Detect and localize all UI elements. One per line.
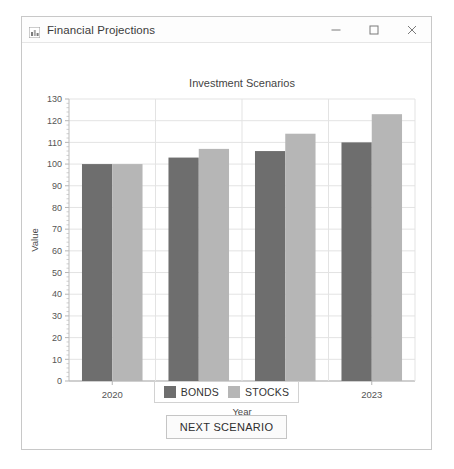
title-bar: Financial Projections	[22, 17, 431, 43]
close-icon[interactable]	[393, 17, 431, 42]
svg-text:80: 80	[52, 203, 62, 213]
legend-label-stocks: STOCKS	[245, 386, 289, 398]
legend-item-bonds[interactable]: BONDS	[164, 386, 219, 398]
legend-wrapper: BONDS STOCKS	[22, 381, 431, 403]
svg-text:30: 30	[52, 311, 62, 321]
svg-text:60: 60	[52, 246, 62, 256]
svg-text:50: 50	[52, 268, 62, 278]
screenshot-root: Financial Projections Investm	[0, 0, 454, 469]
window-title: Financial Projections	[47, 24, 155, 36]
legend-label-bonds: BONDS	[181, 386, 219, 398]
svg-text:130: 130	[47, 94, 62, 104]
svg-text:100: 100	[47, 159, 62, 169]
svg-text:90: 90	[52, 181, 62, 191]
svg-text:120: 120	[47, 116, 62, 126]
svg-text:110: 110	[48, 138, 62, 148]
minimize-icon[interactable]	[317, 17, 355, 42]
legend-swatch-bonds	[164, 386, 176, 398]
application-window: Financial Projections Investm	[21, 16, 432, 450]
bar-chart-icon	[29, 24, 40, 35]
next-scenario-button[interactable]: NEXT SCENARIO	[166, 415, 288, 439]
svg-text:Value: Value	[29, 228, 40, 252]
svg-text:70: 70	[52, 224, 62, 234]
legend-swatch-stocks	[228, 386, 240, 398]
button-wrapper: NEXT SCENARIO	[22, 415, 431, 439]
svg-text:10: 10	[52, 355, 62, 365]
svg-text:40: 40	[52, 289, 62, 299]
chart-legend: BONDS STOCKS	[154, 381, 300, 403]
maximize-icon[interactable]	[355, 17, 393, 42]
chart-container: Investment Scenarios01020304050607080901…	[22, 43, 431, 449]
svg-text:20: 20	[52, 333, 62, 343]
legend-item-stocks[interactable]: STOCKS	[228, 386, 289, 398]
svg-text:Investment Scenarios: Investment Scenarios	[189, 77, 295, 89]
